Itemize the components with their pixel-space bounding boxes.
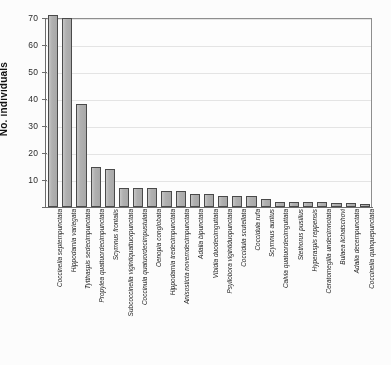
x-axis-tick-label: Hippodamia variegata — [70, 144, 77, 209]
y-axis-tick-label: 30 — [8, 121, 38, 131]
chart-page: No. individuals 10203040506070 Coccinell… — [0, 0, 391, 365]
y-axis-tick-label: 70 — [8, 13, 38, 23]
x-axis-tick-label: Coccinella septempunctata — [56, 129, 63, 209]
y-axis-tick-label: 10 — [8, 175, 38, 185]
x-axis-tick-label: Adalia decempunctata — [353, 143, 360, 209]
x-axis-tick-label: Bulaea lichatschovi — [339, 151, 346, 209]
bar-series — [46, 18, 372, 207]
y-axis-tick-label: 20 — [8, 148, 38, 158]
x-axis-tick-label: Propylea quattuordecimpunctata — [98, 113, 105, 209]
x-axis-tick-label: Stethorus pusillus — [297, 156, 304, 209]
x-axis-tick-label: Oenopia conglobata — [155, 149, 162, 209]
x-axis-tick-label: Hyperaspis reppensis — [311, 145, 318, 209]
x-axis-line — [45, 207, 373, 208]
x-axis-labels: Coccinella septempunctataHippodamia vari… — [46, 209, 372, 365]
x-axis-tick-label: Coccinella quinquepunctata — [368, 127, 375, 209]
x-axis-tick-label: Hippodamia tredecimpunctata — [169, 121, 176, 209]
x-axis-tick-label: Coccinula quatuordecimpustulata — [141, 111, 148, 209]
x-axis-tick-label: Coccidula scutellata — [240, 149, 247, 209]
y-axis-tick-label: 40 — [8, 94, 38, 104]
x-axis-tick-label: Scymnus auritus — [268, 159, 275, 209]
x-axis-tick-label: Tytthaspis sedecimpunctata — [84, 127, 91, 209]
x-axis-tick-label: Subcoccinella vigintiquattuorpunctata — [127, 100, 134, 209]
y-axis-tick — [42, 207, 47, 208]
x-axis-tick-label: Scymnus frontalis — [112, 156, 119, 209]
x-axis-tick-label: Adalia bipunctata — [197, 157, 204, 209]
x-axis-tick-label: Psyllobora vigintiduopunctata — [226, 122, 233, 209]
x-axis-tick-label: Calvia quatuordecimguttata — [282, 128, 289, 209]
y-axis-tick-label: 50 — [8, 67, 38, 77]
x-axis-tick-label: Ceratomegilla undecimnotata — [325, 123, 332, 209]
x-axis-tick-label: Coccidula rufa — [254, 165, 261, 209]
x-axis-tick-label: Vibidia duodecimguttata — [212, 138, 219, 209]
x-axis-tick-label: Anisosticta novemdecimpunctata — [183, 112, 190, 209]
y-axis-tick-label: 60 — [8, 40, 38, 50]
